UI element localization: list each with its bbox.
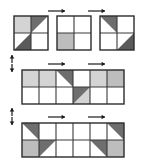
tile-cell — [56, 70, 73, 87]
tile-cell — [117, 33, 134, 50]
tile-cell — [31, 16, 48, 33]
tile-cell — [56, 140, 73, 157]
block-middle-strip — [22, 70, 124, 104]
tile-cell — [74, 33, 91, 50]
tile-cell — [74, 16, 91, 33]
tile-cell — [107, 123, 124, 140]
tile-cell — [73, 87, 90, 104]
arrow-bottom-left-icon — [48, 115, 65, 120]
arrow-left-lower-icon — [10, 64, 15, 72]
tile-cell — [39, 87, 56, 104]
tile-cell — [39, 140, 56, 157]
arrow-left-lower-2-icon — [10, 117, 15, 125]
tile-cell — [14, 16, 31, 33]
tile-cell — [57, 16, 74, 33]
tile-cell — [39, 70, 56, 87]
arrow-middle-right-icon — [88, 62, 105, 67]
tile-cell — [117, 16, 134, 33]
tile-cell — [39, 123, 56, 140]
tile-cell — [90, 123, 107, 140]
block-top-3 — [100, 16, 134, 50]
tile-cell — [22, 123, 39, 140]
arrow-top-left-icon — [48, 9, 65, 14]
tiling-diagram — [0, 0, 142, 162]
diagram-stage — [0, 0, 142, 162]
tile-cell — [90, 140, 107, 157]
tile-cell — [107, 87, 124, 104]
block-top-1 — [14, 16, 48, 50]
tile-cell — [14, 33, 31, 50]
arrow-top-right-icon — [88, 9, 105, 14]
arrow-bottom-right-icon — [88, 115, 105, 120]
tile-cell — [31, 33, 48, 50]
tile-cell — [107, 140, 124, 157]
tile-cell — [107, 70, 124, 87]
block-top-2 — [57, 16, 91, 50]
arrow-left-upper-icon — [10, 55, 15, 63]
tile-cell — [22, 140, 39, 157]
tile-cell — [100, 33, 117, 50]
tile-cell — [73, 70, 90, 87]
tile-cell — [56, 123, 73, 140]
tile-cell — [73, 123, 90, 140]
tile-cell — [57, 33, 74, 50]
tile-cell — [73, 140, 90, 157]
arrow-left-upper-2-icon — [10, 108, 15, 116]
tile-cell — [22, 70, 39, 87]
tile-cell — [90, 87, 107, 104]
tile-cell — [90, 70, 107, 87]
tile-cell — [100, 16, 117, 33]
block-bottom-strip — [22, 123, 124, 157]
arrow-middle-left-icon — [48, 62, 65, 67]
tile-cell — [22, 87, 39, 104]
tile-cell — [56, 87, 73, 104]
